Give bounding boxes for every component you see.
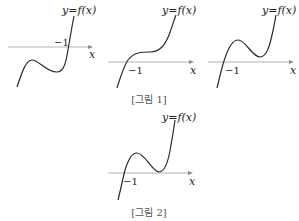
function-label: y=f(x) [262,5,296,16]
figure-canvas [0,0,299,221]
x-axis-label: x [189,176,195,187]
figure-1-caption: [그림 1] [131,95,166,105]
function-curve [17,16,74,87]
graph-2 [108,15,194,88]
tick-label-neg-1: −1 [128,66,143,76]
graph-4 [108,120,193,200]
tick-label-neg-1: −1 [225,66,240,76]
graph-1 [8,16,93,87]
figure-2-caption: [그림 2] [131,208,166,218]
graph-3 [208,15,294,88]
tick-label-neg-1: −1 [123,177,138,187]
x-axis-label: x [290,65,296,76]
function-label: y=f(x) [162,5,196,16]
function-label: y=f(x) [162,112,196,123]
function-curve [217,15,276,88]
function-curve [117,15,176,88]
tick-label-neg-1: −1 [54,38,69,48]
function-curve [118,120,175,200]
x-axis-label: x [190,65,196,76]
function-label: y=f(x) [62,5,96,16]
x-axis-label: x [89,49,95,60]
